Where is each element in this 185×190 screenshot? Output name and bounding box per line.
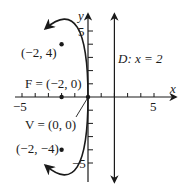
directrix-label: D: x = 2 [117, 51, 163, 66]
upper-point-label: (−2, 4) [21, 45, 57, 60]
vertex-leader [76, 99, 87, 117]
upper-point [59, 42, 63, 46]
x-axis [15, 93, 176, 97]
vertex-point [86, 95, 90, 99]
lower-point [59, 148, 63, 152]
x-tick-neg5: −5 [13, 99, 27, 114]
y-tick-5: 5 [78, 24, 85, 39]
x-axis-label: x [169, 81, 176, 96]
parabola-diagram: y x 5 −5 −5 5 D: x = 2 (−2, 4) F = (−2, … [0, 0, 185, 190]
x-tick-5: 5 [150, 99, 157, 114]
vertex-label: V = (0, 0) [25, 117, 76, 132]
focus-point [59, 95, 63, 99]
y-axis-label: y [76, 8, 84, 23]
focus-label: F = (−2, 0) [25, 76, 82, 91]
y-tick-neg5: −5 [72, 156, 86, 171]
lower-point-label: (−2, −4) [16, 141, 59, 156]
directrix-label-text: D: x = 2 [117, 51, 163, 66]
